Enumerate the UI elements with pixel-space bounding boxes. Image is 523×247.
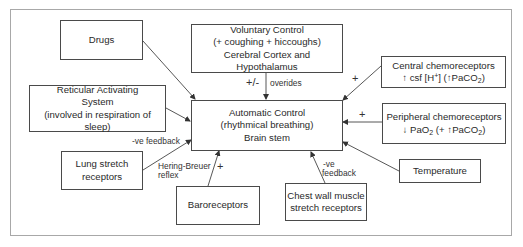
peripheral-sign-label: + <box>359 108 365 120</box>
peripheral-line-1: Peripheral chemoreceptors <box>386 111 501 124</box>
node-voluntary-control: Voluntary Control (+ coughing + hiccough… <box>191 24 343 73</box>
node-baroreceptors: Baroreceptors <box>176 186 260 225</box>
chest-feedback-label-2: feedback <box>322 169 356 179</box>
lung-line-2: receptors <box>82 171 122 184</box>
baroreceptors-label: Baroreceptors <box>188 199 248 212</box>
reticular-line-1: Reticular Activating <box>57 84 139 97</box>
lung-line-1: Lung stretch <box>76 158 129 171</box>
center-line-1: Automatic Control <box>229 107 305 120</box>
voluntary-line-1: Voluntary Control <box>230 24 304 37</box>
chest-line-2: stretch receptors <box>290 202 361 215</box>
baro-sign-label: + <box>217 160 223 172</box>
node-automatic-control: Automatic Control (rhythmical breathing)… <box>191 100 343 151</box>
hering-breuer-label-2: reflex <box>158 171 178 181</box>
central-line-2: ↑ csf [H+] (↑PaCO2) <box>402 72 485 85</box>
central-sign-label: + <box>352 72 358 84</box>
temperature-label: Temperature <box>413 165 467 178</box>
center-line-2: (rhythmical breathing) <box>221 119 314 132</box>
lung-feedback-label: -ve feedback <box>132 137 180 147</box>
chest-line-1: Chest wall muscle <box>287 190 364 203</box>
center-line-3: Brain stem <box>244 132 290 145</box>
node-central-chemoreceptors: Central chemoreceptors ↑ csf [H+] (↑PaCO… <box>381 56 506 88</box>
node-drugs: Drugs <box>60 20 143 60</box>
voluntary-overides-label: overides <box>270 79 302 89</box>
reticular-line-3: (involved in respiration of sleep) <box>30 109 165 134</box>
node-temperature: Temperature <box>399 159 481 183</box>
node-chest-wall-receptors: Chest wall muscle stretch receptors <box>285 183 367 221</box>
node-peripheral-chemoreceptors: Peripheral chemoreceptors ↓ PaO2 (+ ↑PaC… <box>382 103 506 144</box>
voluntary-line-2: (+ coughing + hiccoughs) <box>213 36 321 49</box>
node-reticular-activating-system: Reticular Activating System (involved in… <box>29 85 166 132</box>
central-line-1: Central chemoreceptors <box>392 60 494 73</box>
peripheral-line-2: ↓ PaO2 (+ ↑PaCO2) <box>403 124 486 137</box>
drugs-label: Drugs <box>89 34 115 47</box>
node-lung-stretch-receptors: Lung stretch receptors <box>61 151 143 190</box>
reticular-line-2: System <box>82 96 114 109</box>
voluntary-line-3: Cerebral Cortex and Hypothalamus <box>192 49 342 74</box>
voluntary-sign-label: +/- <box>246 76 259 88</box>
